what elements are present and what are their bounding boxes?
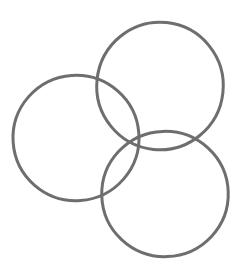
three-circles-figure: Three Overlapping Circles Hand-drawn sty… xyxy=(0,0,244,270)
drawing-canvas: Three Overlapping Circles Hand-drawn sty… xyxy=(0,0,244,270)
canvas-background xyxy=(0,0,244,270)
